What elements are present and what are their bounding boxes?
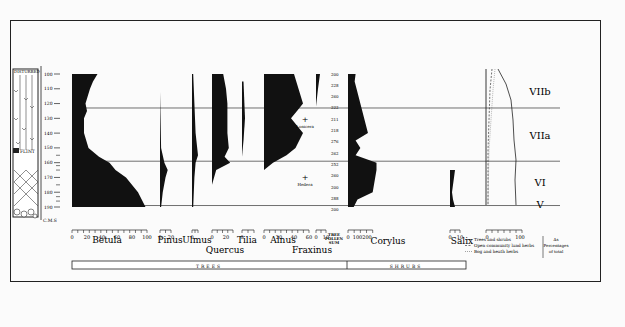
depth-tick-label: 150 <box>44 145 53 150</box>
curve-alnus <box>264 74 303 170</box>
scale-tick-label: 100 <box>142 234 152 240</box>
disturbed-label: DISTURBED <box>14 69 40 74</box>
scale-tick-label: 80 <box>129 234 135 240</box>
scale-tick-label: 0 <box>262 234 265 240</box>
taxon-label-betula: Betula <box>92 235 122 245</box>
tree-pollen-sum-column: 200228260222211218276262252260200288200T… <box>325 72 343 246</box>
flint-label: FLINT <box>20 149 35 154</box>
depth-tick-label: 120 <box>44 101 53 106</box>
depth-tick-label: 180 <box>44 190 53 195</box>
svg-text:+: + <box>302 115 309 124</box>
depth-tick-label: 130 <box>44 116 53 121</box>
curve-fraxinus <box>316 74 320 107</box>
depth-tick-label: 140 <box>44 131 53 136</box>
summary-curves: 0100 <box>485 69 524 240</box>
taxon-label-alnus: Alnus <box>269 235 296 245</box>
svg-text:+: + <box>302 173 309 182</box>
curve-pinus <box>160 92 168 207</box>
taxon-label-fraxinus: Fraxinus <box>292 245 332 255</box>
svg-text:of total: of total <box>549 249 564 254</box>
tree-pollen-sum-value: 288 <box>331 196 339 201</box>
zone-label: VIIa <box>528 130 550 141</box>
tree-pollen-sum-value: 276 <box>331 139 339 144</box>
scale-tick-label: 60 <box>306 234 312 240</box>
tree-pollen-sum-value: 211 <box>331 117 339 122</box>
scale-tick-label: 0 <box>314 234 317 240</box>
taxon-label-tilia: Tilia <box>237 235 258 245</box>
depth-tick-label: 170 <box>44 175 53 180</box>
scale-tick-label: 0 <box>70 234 73 240</box>
legend-item: Bog and heath herbs <box>474 249 518 254</box>
tree-pollen-sum-value: 222 <box>331 105 339 110</box>
depth-tick-label: 160 <box>44 160 53 165</box>
curve-corylus <box>348 74 377 207</box>
group-bar: TREESSHRUBS <box>72 261 466 269</box>
taxon-scales: 020406080100Betula020Pinus0Ulmus020Querc… <box>70 230 473 255</box>
svg-text:SUM: SUM <box>329 240 340 245</box>
annotation-lonicera: Lonicera <box>296 124 314 129</box>
depth-tick-label: 190 <box>44 205 53 210</box>
scale-tick-label: 20 <box>84 234 90 240</box>
stratigraphy-column: DISTURBED FLINT <box>13 69 40 218</box>
svg-text:Percentages: Percentages <box>544 243 569 248</box>
depth-unit-label: C.M.S <box>43 218 57 223</box>
taxon-label-ulmus: Ulmus <box>182 235 212 245</box>
tree-pollen-sum-value: 200 <box>331 185 339 190</box>
taxon-label-quercus: Quercus <box>206 245 245 255</box>
taxon-label-corylus: Corylus <box>371 236 406 246</box>
scale-tick-label: 0 <box>346 234 349 240</box>
curve-salix <box>450 170 455 207</box>
tree-pollen-sum-value: 252 <box>331 162 339 167</box>
scale-tick-label: 20 <box>223 234 229 240</box>
depth-tick-label: 100 <box>44 72 53 77</box>
tree-pollen-sum-value: 218 <box>331 128 339 133</box>
zone-label: VIIb <box>528 86 551 97</box>
depth-tick-label: 110 <box>44 86 53 91</box>
tree-pollen-sum-value: 262 <box>331 151 339 156</box>
svg-text:As: As <box>553 237 559 242</box>
depth-axis: 100110120130140150160170180190C.M.S <box>41 66 60 223</box>
svg-text:100: 100 <box>515 234 525 240</box>
taxon-label-salix: Salix <box>451 236 473 246</box>
legend-item: Open community land herbs <box>474 243 534 248</box>
annotation-hedera: Hedera <box>297 182 313 187</box>
tree-pollen-sum-value: 200 <box>331 72 339 77</box>
curve-betula <box>72 74 146 207</box>
pollen-diagram: DISTURBED FLINT 100110120130140150160170… <box>0 0 625 327</box>
group-label-shrubs: SHRUBS <box>390 264 423 269</box>
taxon-curves: +Lonicera+Hedera <box>72 74 455 207</box>
scale-tick-label: 0 <box>210 234 213 240</box>
scale-tick-label: 100 <box>353 234 363 240</box>
zone-label: V <box>535 199 544 210</box>
legend-item: Trees and shrubs <box>474 237 511 242</box>
tree-pollen-sum-value: 228 <box>331 83 339 88</box>
curve-ulmus <box>192 74 198 207</box>
tree-pollen-sum-value: 200 <box>331 207 339 212</box>
taxon-label-pinus: Pinus <box>157 235 183 245</box>
tree-pollen-sum-value: 260 <box>331 94 339 99</box>
curve-tilia <box>242 81 245 156</box>
group-label-trees: TREES <box>196 264 222 269</box>
zone-label: VI <box>533 177 545 188</box>
tree-pollen-sum-value: 260 <box>331 173 339 178</box>
curve-quercus <box>212 74 230 185</box>
